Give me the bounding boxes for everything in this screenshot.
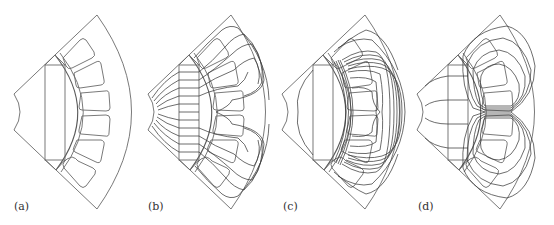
panel-d <box>417 15 535 209</box>
flux-lines-d <box>425 26 535 198</box>
panel-b <box>148 15 269 209</box>
flux-lines-b <box>152 26 269 197</box>
machine-geometry-a <box>14 15 132 209</box>
figure-canvas <box>0 0 554 225</box>
machine-geometry-d <box>417 15 535 209</box>
flux-lines-c <box>297 30 405 194</box>
panel-label-d: (d) <box>418 200 434 213</box>
panel-label-a: (a) <box>14 200 29 213</box>
panel-label-b: (b) <box>148 200 164 213</box>
panel-label-c: (c) <box>283 200 298 213</box>
panel-a <box>14 15 132 209</box>
panel-c <box>282 15 405 209</box>
flux-plot-figure: (a) (b) (c) (d) <box>0 0 554 225</box>
